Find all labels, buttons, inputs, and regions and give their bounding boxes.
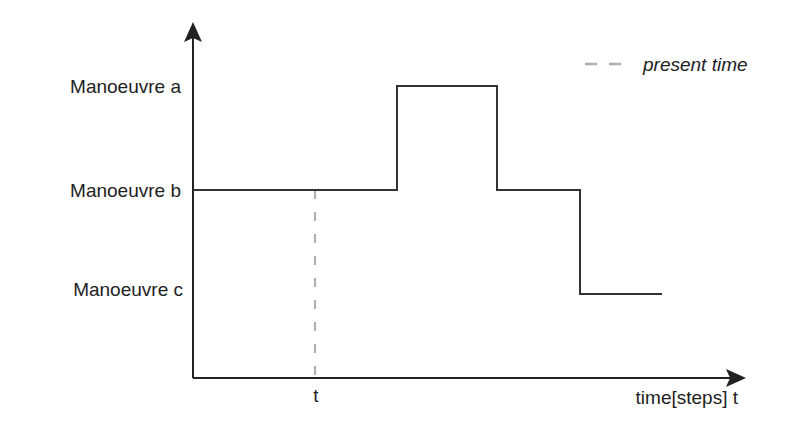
y-label-manoeuvre-b: Manoeuvre b bbox=[70, 180, 181, 201]
x-axis-label: time[steps] t bbox=[636, 387, 739, 408]
manoeuvre-timeline-diagram: Manoeuvre a Manoeuvre b Manoeuvre c t ti… bbox=[0, 0, 811, 433]
y-label-manoeuvre-a: Manoeuvre a bbox=[70, 76, 181, 97]
y-label-manoeuvre-c: Manoeuvre c bbox=[73, 279, 183, 300]
manoeuvre-step-line bbox=[193, 86, 662, 294]
legend: present time bbox=[585, 54, 748, 75]
x-tick-label-t: t bbox=[313, 385, 319, 406]
legend-label-present-time: present time bbox=[642, 54, 748, 75]
